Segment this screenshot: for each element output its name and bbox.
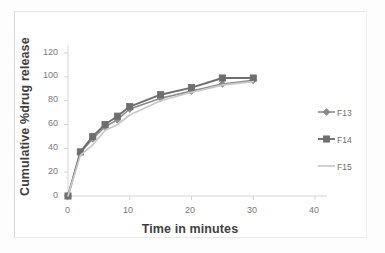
data-point-f14 [219, 75, 225, 81]
data-point-f14 [158, 92, 164, 98]
data-point-f14 [250, 75, 256, 81]
y-tick-label: 0 [53, 190, 58, 200]
x-tick-label: 30 [247, 205, 257, 215]
x-tick-label: 10 [123, 205, 133, 215]
legend-item-label-f13: F13 [337, 108, 352, 118]
legend-item-label-f15: F15 [337, 162, 352, 172]
legend-marker-f13 [323, 109, 330, 116]
y-tick-label: 20 [48, 166, 58, 176]
data-point-f14 [127, 104, 133, 110]
page-background: 120 100 80 60 40 20 0 0 10 20 30 40 F13 … [0, 0, 385, 253]
y-tick-label: 40 [48, 142, 58, 152]
data-point-f14 [90, 133, 96, 139]
y-tick-label: 80 [48, 94, 58, 104]
series-layer [65, 75, 257, 199]
y-axis-title: Cumulative %drug release [18, 52, 32, 196]
legend-item-label-f14: F14 [337, 135, 352, 145]
data-point-f14 [114, 113, 120, 119]
x-axis-title: Time in minutes [100, 222, 280, 236]
legend-marker-f14 [323, 136, 329, 142]
x-tick-label: 40 [309, 205, 319, 215]
chart-frame: 120 100 80 60 40 20 0 0 10 20 30 40 F13 … [14, 11, 367, 238]
data-point-f14 [188, 84, 194, 90]
data-point-f14 [102, 121, 108, 127]
x-tick-label: 20 [185, 205, 195, 215]
x-tick-label: 0 [65, 205, 70, 215]
y-tick-label: 120 [43, 47, 58, 57]
y-tick-label: 60 [48, 118, 58, 128]
legend-marker-layer [318, 109, 335, 166]
y-tick-label: 100 [43, 70, 58, 80]
